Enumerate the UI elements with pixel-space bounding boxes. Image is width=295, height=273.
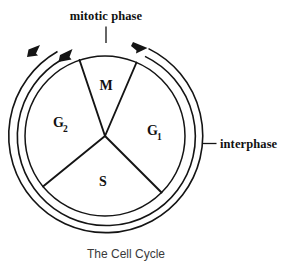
sector-label-g2-phase: G 2 bbox=[53, 115, 68, 134]
arrowhead-icon bbox=[131, 42, 148, 54]
g1-phase-subscript: 1 bbox=[157, 132, 162, 142]
arrowhead-icon bbox=[27, 45, 40, 57]
mitotic-phase-label: mitotic phase bbox=[70, 9, 143, 23]
ring-arrow-top-right bbox=[131, 42, 148, 54]
ring-arrow-top-mid bbox=[59, 49, 73, 62]
callout-mitotic-phase: mitotic phase bbox=[70, 9, 143, 43]
ring-outer-arc bbox=[9, 49, 203, 233]
ring-outer-arc-group bbox=[9, 49, 203, 233]
divider-g2-s bbox=[43, 136, 105, 187]
divider-m-g2 bbox=[80, 60, 106, 136]
ring-arrow-top-left bbox=[27, 45, 40, 57]
divider-s-g1 bbox=[105, 136, 162, 193]
sector-label-m-phase: M bbox=[99, 78, 112, 93]
cell-cycle-figure: mitotic phase interphase M G 1 S G 2 bbox=[0, 0, 295, 273]
g2-phase-subscript: 2 bbox=[63, 124, 68, 134]
figure-caption: The Cell Cycle bbox=[87, 247, 165, 261]
cell-cycle-diagram: mitotic phase interphase M G 1 S G 2 bbox=[0, 0, 295, 273]
arrowhead-icon bbox=[59, 49, 73, 62]
sector-label-s-phase: S bbox=[99, 174, 107, 189]
sector-label-g1-phase: G 1 bbox=[147, 123, 162, 142]
interphase-label: interphase bbox=[220, 137, 278, 151]
callout-interphase: interphase bbox=[203, 137, 278, 151]
m-phase-label: M bbox=[99, 78, 112, 93]
s-phase-label: S bbox=[99, 174, 107, 189]
divider-m-g1 bbox=[105, 63, 137, 137]
